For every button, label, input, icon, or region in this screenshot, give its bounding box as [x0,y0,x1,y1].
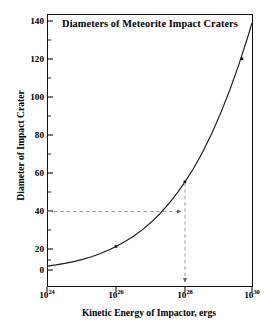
chart-vector-layer [0,0,272,328]
y-axis-major-ticks [47,21,53,270]
x-axis-major-ticks [47,287,252,292]
figure-root: Diameters of Meteorite Impact Craters 14… [0,0,272,328]
y-axis-minor-ticks [47,40,51,260]
data-curve [47,23,252,266]
data-point-markers [115,58,244,248]
